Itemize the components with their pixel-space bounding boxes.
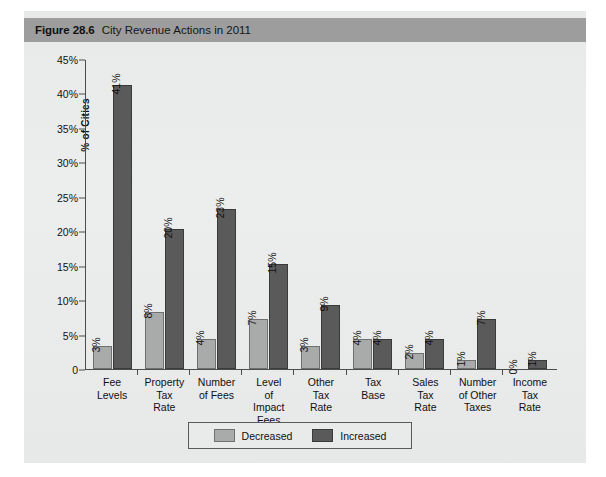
bar-increased[interactable]: 15%: [269, 264, 288, 369]
bar-value-label: 2%: [403, 345, 415, 360]
bar-decreased[interactable]: 8%: [145, 312, 164, 369]
bar-value-label: 4%: [351, 331, 363, 346]
y-axis-tick-mark: [79, 301, 85, 302]
bar-decreased[interactable]: 0%: [510, 369, 527, 370]
legend-swatch-increased: [312, 429, 333, 442]
bar-increased[interactable]: 9%: [321, 305, 340, 369]
x-axis-category-label: FeeLevels: [86, 376, 138, 426]
bar-value-label: 1%: [526, 352, 538, 367]
bar-value-label: 7%: [246, 310, 258, 325]
x-axis-tick-mark: [241, 369, 242, 375]
bar-groups: 3%41%8%20%4%23%7%15%3%9%4%4%2%4%1%7%0%1%: [86, 60, 555, 369]
x-axis-category-label: SalesTaxRate: [399, 376, 451, 426]
x-axis-category-label: OtherTaxRate: [295, 376, 347, 426]
bar-value-label: 15%: [266, 252, 278, 273]
bar-increased[interactable]: 1%: [528, 360, 547, 369]
y-axis-tick-mark: [79, 197, 85, 198]
bar-value-label: 8%: [142, 303, 154, 318]
bar-group: 0%1%: [503, 60, 555, 369]
y-axis-tick-label: 0: [26, 364, 85, 376]
bar-decreased[interactable]: 4%: [353, 339, 372, 369]
bar-increased[interactable]: 4%: [373, 339, 392, 369]
y-axis-tick-label: 35%: [26, 123, 85, 135]
x-axis-tick-mark: [450, 369, 451, 375]
x-axis-category-label: LevelofImpactFees: [243, 376, 295, 426]
x-axis-category-label: Numberof Fees: [190, 376, 242, 426]
bar-value-label: 9%: [318, 296, 330, 311]
y-axis-tick-mark: [79, 335, 85, 336]
bar-value-label: 4%: [194, 331, 206, 346]
bar-increased[interactable]: 20%: [165, 229, 184, 369]
legend-label-increased: Increased: [340, 430, 386, 442]
bar-group: 7%15%: [242, 60, 294, 369]
bar-value-label: 4%: [371, 331, 383, 346]
x-axis-category-label: PropertyTaxRate: [138, 376, 190, 426]
bar-decreased[interactable]: 3%: [301, 346, 320, 369]
figure-header-band: Figure 28.6 City Revenue Actions in 2011: [24, 18, 586, 42]
x-axis-tick-mark: [293, 369, 294, 375]
y-axis-tick-mark: [79, 94, 85, 95]
x-axis-category-label: TaxBase: [347, 376, 399, 426]
plot-area: % of Cities 05%10%15%20%25%30%35%40%45% …: [85, 60, 555, 370]
bar-value-label: 7%: [475, 310, 487, 325]
y-axis-tick-label: 20%: [26, 226, 85, 238]
figure-root: Figure 28.6 City Revenue Actions in 2011…: [0, 0, 606, 477]
y-axis-tick-label: 10%: [26, 295, 85, 307]
y-axis-tick-label: 30%: [26, 157, 85, 169]
y-axis-tick-mark: [79, 60, 85, 61]
bar-decreased[interactable]: 7%: [249, 319, 268, 369]
bar-group: 3%41%: [86, 60, 138, 369]
legend-item-increased: Increased: [312, 429, 386, 442]
bar-group: 2%4%: [399, 60, 451, 369]
bar-value-label: 3%: [298, 338, 310, 353]
bar-group: 4%4%: [347, 60, 399, 369]
bar-value-label: 1%: [455, 352, 467, 367]
x-axis-category-labels: FeeLevelsPropertyTaxRateNumberof FeesLev…: [86, 376, 556, 426]
figure-number: Figure 28.6: [35, 24, 95, 36]
bar-decreased[interactable]: 2%: [405, 353, 424, 369]
bar-increased[interactable]: 7%: [477, 319, 496, 369]
bar-increased[interactable]: 4%: [425, 339, 444, 369]
legend-swatch-decreased: [214, 429, 235, 442]
bar-increased[interactable]: 41%: [113, 85, 132, 369]
x-axis-tick-mark: [502, 369, 503, 375]
x-axis-category-label: Numberof OtherTaxes: [452, 376, 504, 426]
bar-value-label: 3%: [90, 338, 102, 353]
y-axis-tick-label: 25%: [26, 192, 85, 204]
chart-area: % of Cities 05%10%15%20%25%30%35%40%45% …: [24, 45, 586, 463]
bar-group: 8%20%: [138, 60, 190, 369]
bar-group: 1%7%: [451, 60, 503, 369]
x-axis-line: [85, 369, 557, 370]
legend-label-decreased: Decreased: [242, 430, 293, 442]
x-axis-category-label: IncomeTaxRate: [504, 376, 556, 426]
legend-item-decreased: Decreased: [214, 429, 293, 442]
y-axis-tick-label: 40%: [26, 88, 85, 100]
bar-group: 4%23%: [190, 60, 242, 369]
x-axis-tick-mark: [137, 369, 138, 375]
bar-value-label: 20%: [162, 218, 174, 239]
chart-legend: Decreased Increased: [188, 422, 412, 449]
bar-value-label: 41%: [110, 73, 122, 94]
y-axis-tick-mark: [79, 128, 85, 129]
y-axis-tick-mark: [79, 163, 85, 164]
x-axis-tick-mark: [189, 369, 190, 375]
x-axis-tick-mark: [346, 369, 347, 375]
y-axis-tick-label: 5%: [26, 330, 85, 342]
y-axis-tick-label: 15%: [26, 261, 85, 273]
bar-value-label: 23%: [214, 197, 226, 218]
bar-decreased[interactable]: 1%: [457, 360, 476, 369]
bar-increased[interactable]: 23%: [217, 209, 236, 369]
y-axis-tick-mark: [79, 232, 85, 233]
x-axis-tick-mark: [398, 369, 399, 375]
y-axis-tick-label: 45%: [26, 54, 85, 66]
y-axis-tick-mark: [79, 266, 85, 267]
bar-value-label: 0%: [507, 359, 519, 374]
y-axis-tick-mark: [79, 370, 85, 371]
bar-decreased[interactable]: 4%: [197, 339, 216, 369]
figure-title: City Revenue Actions in 2011: [102, 24, 251, 36]
bar-value-label: 4%: [423, 331, 435, 346]
bar-group: 3%9%: [294, 60, 346, 369]
bar-decreased[interactable]: 3%: [93, 346, 112, 369]
